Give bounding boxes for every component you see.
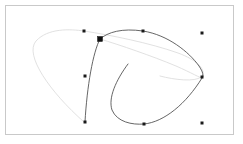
anchor-bottom-left[interactable] xyxy=(84,121,87,124)
anchor-bottom-mid[interactable] xyxy=(143,123,146,126)
anchor-top-left[interactable] xyxy=(83,30,86,33)
anchor-right-mid[interactable] xyxy=(201,76,204,79)
vector-canvas-root[interactable] xyxy=(0,0,243,144)
anchor-left-mid[interactable] xyxy=(84,75,87,78)
vector-drawing-surface[interactable] xyxy=(0,0,243,144)
anchor-bottom-right[interactable] xyxy=(201,122,204,125)
anchor-top-right[interactable] xyxy=(201,32,204,35)
anchor-top-mid[interactable] xyxy=(142,30,145,33)
anchor-main-selected[interactable] xyxy=(98,37,103,42)
